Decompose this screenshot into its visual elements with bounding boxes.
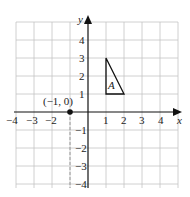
y-tick-label: −2 [75, 142, 87, 154]
grid-lines [16, 22, 178, 188]
x-tick-label: 1 [103, 114, 109, 126]
point-marker [67, 109, 73, 115]
y-axis-label: y [77, 13, 83, 25]
y-tick-label: −3 [75, 160, 87, 172]
point-label: (−1, 0) [43, 95, 73, 108]
x-tick-label: 2 [121, 114, 127, 126]
y-tick-label: 4 [79, 34, 85, 46]
axes [14, 22, 176, 188]
y-tick-label: 2 [79, 70, 85, 82]
y-tick-label: −4 [75, 178, 87, 190]
x-tick-label: −4 [6, 114, 18, 126]
x-tick-label: −3 [26, 114, 38, 126]
x-tick-label: 3 [139, 114, 145, 126]
x-axis-label: x [176, 114, 182, 126]
y-tick-label: −1 [75, 124, 87, 136]
x-tick-label: −2 [45, 114, 57, 126]
coordinate-grid: x y −4 −3 −2 1 2 3 4 4 3 2 1 −1 −2 −3 −4… [0, 0, 190, 197]
y-tick-label: 3 [79, 52, 85, 64]
y-axis-arrow-icon [84, 15, 92, 24]
y-tick-label: 1 [79, 88, 85, 100]
shape-label: A [107, 79, 115, 91]
x-tick-label: 4 [158, 114, 164, 126]
